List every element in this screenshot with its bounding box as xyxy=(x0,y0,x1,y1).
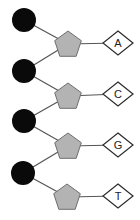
base-label: G xyxy=(114,139,123,151)
nucleotide: A xyxy=(12,8,133,56)
base-label: A xyxy=(114,37,122,49)
nucleotides: ACGT xyxy=(11,8,133,209)
phosphate-circle xyxy=(12,59,36,83)
phosphate-circle xyxy=(11,161,35,185)
base-label: C xyxy=(114,88,122,100)
sugar-pentagon xyxy=(55,31,82,56)
phosphate-circle xyxy=(12,109,36,133)
dna-strand-diagram: ACGT xyxy=(0,0,140,220)
nucleotide: C xyxy=(12,59,133,108)
nucleotide: T xyxy=(11,161,133,209)
sugar-pentagon xyxy=(55,133,82,158)
nucleotide: G xyxy=(12,109,133,158)
phosphate-circle xyxy=(12,8,36,32)
base-label: T xyxy=(115,190,122,202)
sugar-pentagon xyxy=(54,184,81,209)
sugar-pentagon xyxy=(55,83,82,108)
